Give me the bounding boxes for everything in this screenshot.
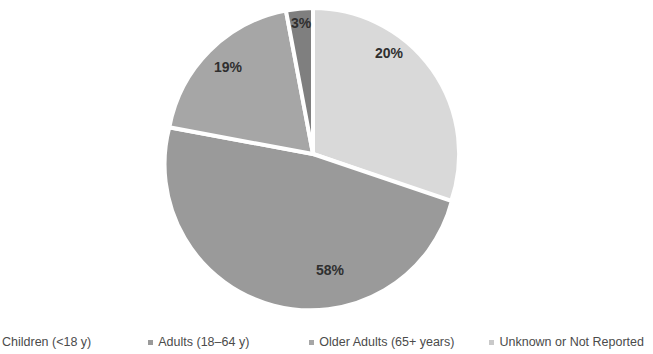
square-marker-icon — [148, 340, 153, 345]
square-marker-icon — [489, 340, 494, 345]
chart-legend: Children (<18 y) Adults (18–64 y) Older … — [0, 330, 653, 354]
legend-item-unknown[interactable]: Unknown or Not Reported — [489, 336, 644, 349]
unknown-slice-label: 3% — [291, 15, 312, 31]
legend-item-adults[interactable]: Adults (18–64 y) — [148, 336, 249, 349]
legend-label-unknown: Unknown or Not Reported — [499, 336, 644, 349]
legend-label-children: Children (<18 y) — [2, 336, 91, 349]
pie-chart-svg: 20% 58% 19% 3% — [0, 0, 653, 318]
children-slice-label: 20% — [375, 45, 404, 61]
legend-label-older-adults: Older Adults (65+ years) — [319, 336, 454, 349]
legend-item-children[interactable]: Children (<18 y) — [2, 336, 91, 349]
legend-label-adults: Adults (18–64 y) — [158, 336, 249, 349]
adults-slice-label: 58% — [316, 262, 345, 278]
square-marker-icon — [309, 340, 314, 345]
older-adults-slice-label: 19% — [214, 59, 243, 75]
legend-item-older-adults[interactable]: Older Adults (65+ years) — [309, 336, 454, 349]
pie-chart: 20% 58% 19% 3% — [0, 0, 653, 318]
